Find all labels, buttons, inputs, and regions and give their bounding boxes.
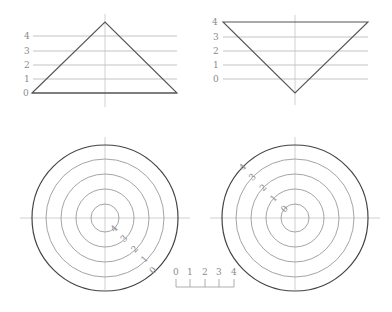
level-label: 4: [212, 17, 218, 27]
contour-label: 0: [279, 203, 290, 214]
contour-label: 2: [129, 244, 140, 255]
contour-map-peak: 0 1 2 3 4: [20, 137, 190, 291]
level-label: 2: [213, 46, 219, 56]
scale-bar: 0 1 2 3 4: [173, 267, 237, 287]
level-label: 0: [23, 88, 29, 98]
contour-label: 4: [109, 223, 120, 234]
level-label: 0: [213, 74, 219, 84]
contour-label: 1: [139, 254, 150, 265]
scale-label: 0: [173, 267, 179, 277]
profile-depression: 4 3 2 1 0: [212, 15, 368, 105]
level-label: 4: [24, 31, 30, 41]
level-label: 3: [24, 46, 30, 56]
scale-label: 3: [216, 267, 222, 277]
depression-triangle: [223, 22, 368, 93]
scale-label: 1: [187, 267, 193, 277]
level-label: 1: [213, 60, 219, 70]
contour-diagram: 4 3 2 1 0 4 3 2 1 0 0 1 2 3 4: [0, 0, 392, 312]
level-label: 1: [24, 74, 30, 84]
profile-peak: 4 3 2 1 0: [23, 14, 177, 107]
level-label: 2: [24, 60, 30, 70]
contour-label: 0: [147, 265, 158, 276]
scale-label: 4: [231, 267, 237, 277]
peak-triangle: [32, 22, 177, 93]
scale-label: 2: [202, 267, 208, 277]
level-label: 3: [213, 32, 219, 42]
